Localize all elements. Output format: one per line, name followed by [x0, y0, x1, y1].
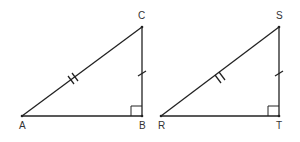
tick-mark-rs-2	[219, 72, 225, 80]
tick-mark-ac-1	[68, 76, 74, 84]
tick-mark-ac-2	[72, 73, 78, 81]
vertex-label-a: A	[19, 121, 26, 131]
congruent-triangles-diagram	[0, 0, 300, 142]
side-ac	[22, 27, 142, 116]
vertex-label-r: R	[158, 121, 165, 131]
tick-mark-rs-1	[215, 75, 221, 83]
vertex-label-t: T	[276, 121, 282, 131]
right-angle-marker-t	[268, 106, 279, 116]
vertex-label-s: S	[276, 11, 283, 21]
vertex-label-b: B	[139, 121, 146, 131]
vertex-label-c: C	[138, 11, 145, 21]
triangle-abc	[22, 27, 146, 116]
right-angle-marker-b	[131, 106, 142, 116]
side-rs	[161, 27, 279, 116]
vertex-dots	[21, 26, 281, 118]
triangle-rts	[161, 27, 283, 116]
